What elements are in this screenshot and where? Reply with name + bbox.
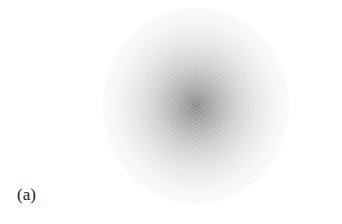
figure-panel: (a) [0,0,342,224]
blob-texture [103,8,289,204]
panel-label: (a) [17,186,36,203]
